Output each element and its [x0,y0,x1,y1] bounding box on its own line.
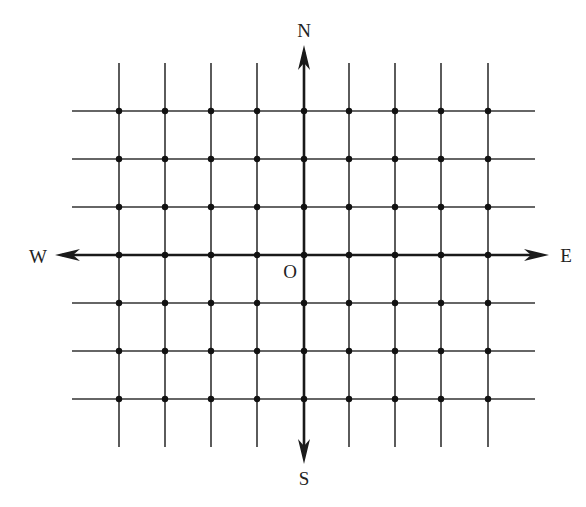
lattice-point [116,252,122,258]
lattice-point [346,396,352,402]
lattice-point [254,300,260,306]
lattice-point [346,300,352,306]
lattice-point [392,108,398,114]
lattice-point [208,300,214,306]
lattice-point [485,156,491,162]
lattice-point [346,108,352,114]
lattice-point [301,108,307,114]
lattice-point [301,204,307,210]
lattice-point [392,204,398,210]
lattice-point [485,396,491,402]
lattice-point [208,396,214,402]
lattice-point [116,396,122,402]
lattice-point [301,156,307,162]
lattice-point [254,108,260,114]
lattice-point [162,108,168,114]
lattice-point [301,348,307,354]
lattice-point [254,252,260,258]
lattice-point [162,204,168,210]
origin-label: O [283,261,297,282]
lattice-point [116,300,122,306]
lattice-point [485,348,491,354]
lattice-point [162,252,168,258]
lattice-point [208,252,214,258]
lattice-point [438,300,444,306]
lattice-point [392,396,398,402]
lattice-point [116,108,122,114]
lattice-point [438,252,444,258]
lattice-point [438,204,444,210]
lattice-point [346,252,352,258]
lattice-point [485,108,491,114]
lattice-point [485,252,491,258]
lattice-point [254,348,260,354]
south-label: S [299,468,310,489]
lattice-point [346,156,352,162]
lattice-point [254,204,260,210]
lattice-point [392,252,398,258]
lattice-point [485,204,491,210]
north-label: N [297,20,311,41]
lattice-point [208,108,214,114]
lattice-point [346,348,352,354]
lattice-point [485,300,491,306]
lattice-point [116,204,122,210]
lattice-point [254,396,260,402]
lattice-point [162,348,168,354]
lattice-point [208,156,214,162]
lattice-point [208,204,214,210]
lattice-point [438,156,444,162]
lattice-point [438,108,444,114]
lattice-point [116,156,122,162]
lattice-point [301,300,307,306]
lattice-point [162,300,168,306]
east-label: E [560,245,572,266]
lattice-point [301,252,307,258]
compass-grid-diagram: N S E W O [0,0,586,507]
west-label: W [29,246,47,267]
lattice-point [162,156,168,162]
lattice-point [346,204,352,210]
lattice-point [438,348,444,354]
lattice-point [162,396,168,402]
lattice-point [392,156,398,162]
lattice-point [116,348,122,354]
lattice-point [392,348,398,354]
lattice-point [392,300,398,306]
lattice-point [301,396,307,402]
lattice-point [208,348,214,354]
lattice-point [254,156,260,162]
lattice-point [438,396,444,402]
